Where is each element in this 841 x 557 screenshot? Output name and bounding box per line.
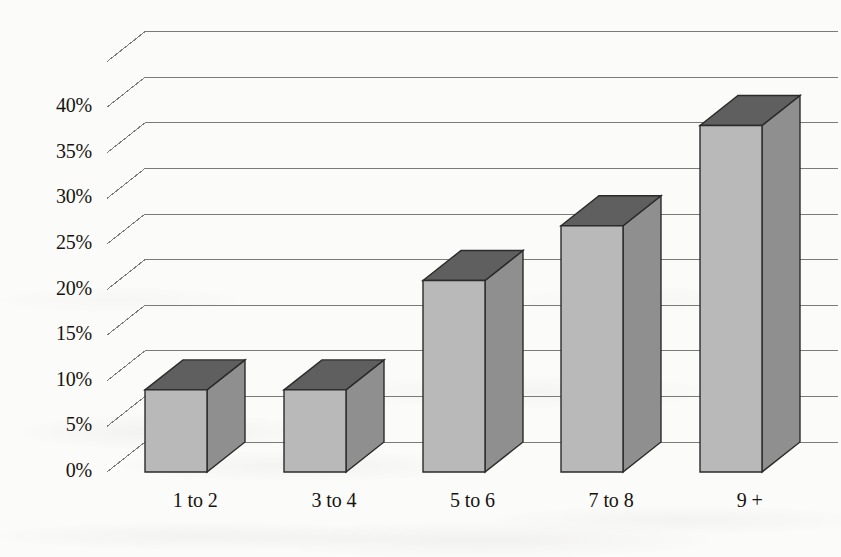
bar-5 [700, 95, 800, 472]
x-tick-label-1: 1 to 2 [125, 489, 265, 512]
gridline-depth-15 [107, 305, 145, 335]
y-tick-label-25pct: 25% [14, 231, 92, 254]
gridline-depth-35 [107, 123, 145, 153]
bar-4 [561, 196, 661, 472]
bar-1 [145, 360, 245, 472]
gridline-depth-5 [107, 396, 145, 426]
y-tick-label-35pct: 35% [14, 140, 92, 163]
bar-3 [423, 250, 523, 472]
bar-front-face-2 [284, 390, 346, 472]
y-tick-label-30pct: 30% [14, 185, 92, 208]
gridline-depth-20 [107, 260, 145, 290]
gridline-depth-10 [107, 351, 145, 381]
gridline-depth-30 [107, 168, 145, 198]
x-tick-label-4: 7 to 8 [541, 489, 681, 512]
y-tick-label-10pct: 10% [14, 368, 92, 391]
bar-side-face-5 [762, 95, 800, 472]
gridline-depth-25 [107, 214, 145, 244]
y-tick-label-0pct: 0% [14, 459, 92, 482]
y-tick-label-20pct: 20% [14, 277, 92, 300]
gridline-depth-45 [107, 32, 145, 62]
bar-side-face-4 [623, 196, 661, 472]
bar-front-face-3 [423, 280, 485, 472]
x-tick-label-2: 3 to 4 [264, 489, 404, 512]
y-tick-label-15pct: 15% [14, 322, 92, 345]
gridline-depth-40 [107, 77, 145, 107]
gridline-depth-0 [107, 442, 145, 472]
chart-figure: 0%5%10%15%20%25%30%35%40% 1 to 23 to 45 … [0, 0, 841, 557]
bar-2 [284, 360, 384, 472]
y-tick-label-40pct: 40% [14, 94, 92, 117]
x-tick-label-5: 9 + [680, 489, 820, 512]
bar-chart-canvas [0, 0, 841, 557]
bar-front-face-1 [145, 390, 207, 472]
bar-side-face-3 [485, 250, 523, 472]
bar-front-face-4 [561, 226, 623, 472]
x-tick-label-3: 5 to 6 [403, 489, 543, 512]
bars-group [145, 95, 800, 472]
y-tick-label-5pct: 5% [14, 413, 92, 436]
bar-front-face-5 [700, 125, 762, 472]
